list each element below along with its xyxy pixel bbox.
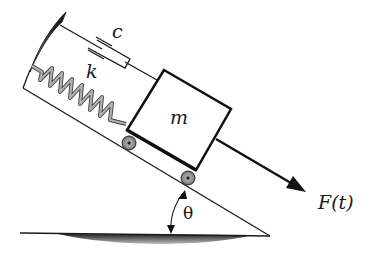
diagram-canvas: c k m F(t) θ — [0, 0, 377, 265]
ground — [20, 233, 270, 244]
damper-label: c — [112, 22, 123, 41]
spring-label: k — [86, 62, 98, 81]
spring — [32, 66, 126, 124]
wall — [30, 12, 66, 72]
angle-label: θ — [183, 205, 193, 222]
force-arrow — [216, 139, 306, 192]
mass-label: m — [170, 108, 188, 127]
force-label: F(t) — [318, 193, 354, 212]
